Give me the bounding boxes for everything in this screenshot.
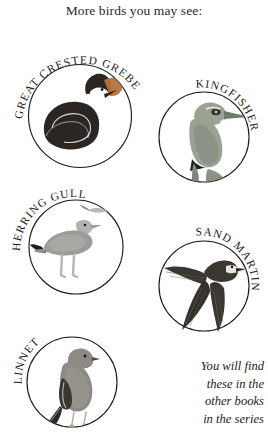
medallion-great-crested-grebe: GREAT CRESTED GREBE — [16, 50, 146, 175]
medallion-herring-gull: HERRING GULL — [14, 183, 139, 305]
page-title: More birds you may see: — [0, 3, 268, 19]
series-note-line-3: other books — [148, 393, 264, 411]
medallion-kingfisher: KINGFISHER — [150, 75, 268, 193]
medallion-sand-martin: SAND MARTIN — [148, 222, 268, 344]
series-note-line-2: these in the — [148, 376, 264, 394]
series-note: You will find these in the other books i… — [148, 358, 264, 428]
series-note-line-1: You will find — [148, 358, 264, 376]
series-note-line-4: in the series — [148, 411, 264, 429]
medallion-linnet: LINNET — [14, 320, 136, 438]
page-root: More birds you may see: — [0, 0, 268, 439]
